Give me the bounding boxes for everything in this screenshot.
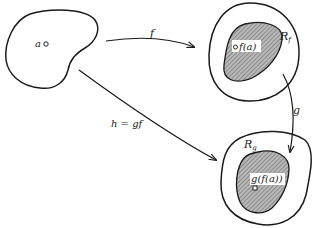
arrow-g-label: g [293, 104, 300, 117]
composition-diagram: a f f(a) Rf g h = gf g(f(a)) Rg [0, 0, 315, 228]
domain-set-outline [6, 10, 98, 88]
arrow-g [283, 74, 293, 152]
point-g-of-f-of-a-marker [253, 186, 257, 190]
arrow-f-label: f [149, 27, 156, 40]
point-a-marker [44, 42, 48, 46]
region-r-f-label: Rf [279, 30, 292, 44]
point-g-of-f-of-a-label: g(f(a)) [251, 173, 283, 184]
region-r-g-label: Rg [243, 138, 257, 152]
point-f-of-a-label: f(a) [238, 41, 257, 52]
point-f-of-a-marker [234, 45, 238, 49]
arrow-h [79, 70, 216, 160]
point-a-label: a [35, 38, 41, 49]
arrow-h-label: h = gf [111, 118, 145, 129]
